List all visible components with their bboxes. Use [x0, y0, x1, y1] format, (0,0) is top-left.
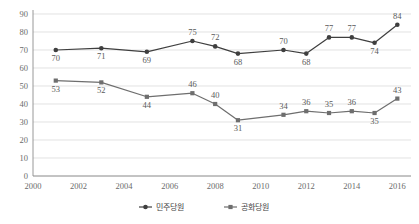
data-point-marker: [145, 50, 150, 55]
y-axis-tick-label: 10: [20, 153, 29, 163]
x-axis-tick-label: 2008: [207, 181, 224, 191]
y-axis-tick-label: 90: [20, 9, 29, 19]
data-point-marker: [99, 80, 103, 84]
y-axis-tick-label: 40: [20, 99, 29, 109]
legend-label[interactable]: 공화당원: [241, 202, 269, 212]
series-lines: [53, 23, 399, 123]
data-point-marker: [190, 91, 194, 95]
data-point-label: 34: [279, 101, 288, 111]
data-point-label: 72: [211, 32, 220, 42]
chart-legend: 민주당원공화당원: [139, 202, 269, 212]
x-axis-tick-label: 2014: [343, 181, 361, 191]
data-point-label: 70: [52, 53, 61, 63]
legend-marker-circle: [143, 205, 148, 210]
data-point-marker: [327, 111, 331, 115]
data-point-label: 84: [393, 11, 402, 21]
series-line: [56, 81, 398, 121]
data-point-label: 31: [234, 123, 243, 133]
data-point-label: 46: [188, 79, 197, 89]
data-point-marker: [53, 48, 58, 53]
y-axis-tick-label: 50: [20, 81, 29, 91]
data-point-label: 68: [234, 57, 243, 67]
data-point-marker: [372, 111, 376, 115]
data-point-marker: [99, 46, 104, 51]
x-axis-tick-label: 2006: [161, 181, 178, 191]
data-point-marker: [304, 109, 308, 113]
legend-marker-square: [228, 205, 232, 209]
data-point-label: 44: [143, 100, 152, 110]
data-point-label: 77: [348, 23, 357, 33]
data-point-label: 35: [325, 99, 334, 109]
data-point-marker: [327, 35, 332, 40]
y-axis-tick-label: 70: [20, 45, 29, 55]
data-point-label: 75: [188, 27, 197, 37]
data-point-marker: [350, 109, 354, 113]
data-point-label: 36: [348, 97, 357, 107]
x-axis-tick-label: 2004: [116, 181, 134, 191]
y-axis-tick-label: 30: [20, 117, 29, 127]
data-point-marker: [190, 39, 195, 44]
data-point-marker: [395, 23, 400, 28]
data-point-marker: [236, 51, 241, 56]
data-point-marker: [213, 102, 217, 106]
data-point-label: 70: [279, 36, 288, 46]
y-axis: 0102030405060708090: [20, 9, 34, 181]
x-axis-tick-label: 2012: [298, 181, 315, 191]
data-point-marker: [281, 113, 285, 117]
y-axis-tick-label: 0: [24, 171, 28, 181]
series-line: [56, 25, 398, 54]
data-point-marker: [372, 41, 377, 46]
data-point-marker: [236, 118, 240, 122]
data-labels: 7071697572687068777774845352444640313436…: [52, 11, 403, 133]
data-point-marker: [281, 48, 286, 53]
y-axis-tick-label: 80: [20, 27, 29, 37]
legend-label[interactable]: 민주당원: [156, 202, 184, 212]
data-point-marker: [145, 95, 149, 99]
data-point-marker: [395, 97, 399, 101]
data-point-label: 36: [302, 97, 311, 107]
data-point-marker: [304, 51, 309, 56]
y-axis-tick-label: 20: [20, 135, 29, 145]
data-point-marker: [349, 35, 354, 40]
data-point-label: 68: [302, 57, 311, 67]
x-axis-tick-label: 2016: [389, 181, 406, 191]
data-point-label: 43: [393, 85, 402, 95]
data-point-label: 53: [52, 84, 61, 94]
data-point-marker: [54, 79, 58, 83]
data-point-label: 69: [143, 55, 152, 65]
x-axis: 200020022004200620082010201220142016: [25, 176, 412, 191]
data-point-label: 52: [97, 85, 106, 95]
data-point-marker: [213, 44, 218, 49]
data-point-label: 74: [370, 46, 379, 56]
data-point-label: 40: [211, 90, 220, 100]
data-point-label: 35: [370, 116, 379, 126]
chart-canvas: 0102030405060708090 20002002200420062008…: [0, 0, 419, 224]
line-chart: 0102030405060708090 20002002200420062008…: [0, 0, 419, 224]
y-axis-tick-label: 60: [20, 63, 29, 73]
data-point-label: 77: [325, 23, 334, 33]
x-axis-tick-label: 2000: [25, 181, 42, 191]
data-point-label: 71: [97, 51, 106, 61]
x-axis-tick-label: 2010: [252, 181, 269, 191]
x-axis-tick-label: 2002: [70, 181, 87, 191]
